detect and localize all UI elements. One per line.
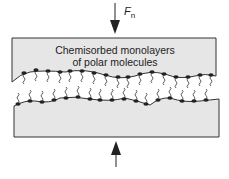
caption-line-1: Chemisorbed monolayers: [40, 44, 190, 56]
arrow-down-icon: [110, 3, 120, 34]
caption-line-2: of polar molecules: [40, 56, 190, 68]
friction-diagram: [0, 0, 229, 179]
arrow-up-icon: [111, 141, 121, 167]
lower-plate: [14, 97, 219, 137]
